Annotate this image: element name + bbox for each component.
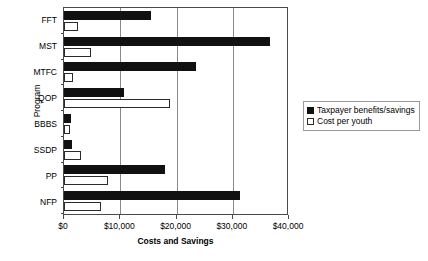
x-axis-tick <box>176 215 177 219</box>
bar-cost-per-youth <box>64 99 170 108</box>
bar-taxpayer-benefits <box>64 11 151 20</box>
legend-entry: Taxpayer benefits/savings <box>307 105 415 116</box>
x-axis-tick-label: $10,000 <box>104 221 135 231</box>
bar-cost-per-youth <box>64 22 78 31</box>
bar-taxpayer-benefits <box>64 191 240 200</box>
bar-taxpayer-benefits <box>64 114 71 123</box>
bar-taxpayer-benefits <box>64 165 165 174</box>
category-label: MST <box>14 33 60 59</box>
bar-group <box>64 34 287 60</box>
category-label: FFT <box>14 7 60 33</box>
x-axis-ticks <box>63 215 288 219</box>
x-axis-tick <box>232 215 233 219</box>
bar-taxpayer-benefits <box>64 37 270 46</box>
bar-cost-per-youth <box>64 73 73 82</box>
x-axis-tick-label: $30,000 <box>216 221 247 231</box>
bar-taxpayer-benefits <box>64 88 124 97</box>
x-axis-tick-label: $40,000 <box>273 221 304 231</box>
bar-cost-per-youth <box>64 202 101 211</box>
category-label: SSDP <box>14 137 60 163</box>
x-axis-tick-label: $20,000 <box>160 221 191 231</box>
bar-group <box>64 188 287 214</box>
category-label: MTFC <box>14 59 60 85</box>
bar-cost-per-youth <box>64 151 81 160</box>
bar-rows <box>64 8 287 214</box>
bar-group <box>64 8 287 34</box>
x-axis-tick-label: $0 <box>58 221 67 231</box>
y-axis-tick <box>61 213 64 214</box>
open-square-icon <box>307 118 314 125</box>
plot-area <box>63 7 288 215</box>
category-label: QOP <box>14 85 60 111</box>
category-label: BBBS <box>14 111 60 137</box>
y-axis-category-labels: FFTMSTMTFCQOPBBBSSSDPPPNFP <box>14 7 60 215</box>
category-label: PP <box>14 163 60 189</box>
bar-chart: Program FFTMSTMTFCQOPBBBSSSDPPPNFP $0$10… <box>0 0 428 261</box>
bar-group <box>64 85 287 111</box>
x-axis-tick-labels: $0$10,000$20,000$30,000$40,000 <box>0 221 428 233</box>
bar-cost-per-youth <box>64 125 70 134</box>
bar-group <box>64 60 287 86</box>
x-axis-title: Costs and Savings <box>63 236 288 246</box>
legend-entry: Cost per youth <box>307 116 415 127</box>
bar-group <box>64 163 287 189</box>
x-axis-tick <box>63 215 64 219</box>
bar-taxpayer-benefits <box>64 62 196 71</box>
x-axis-tick <box>119 215 120 219</box>
bar-group <box>64 137 287 163</box>
bar-cost-per-youth <box>64 176 108 185</box>
legend-label: Taxpayer benefits/savings <box>317 105 415 116</box>
filled-square-icon <box>307 107 314 114</box>
legend-label: Cost per youth <box>317 116 372 127</box>
bar-group <box>64 111 287 137</box>
category-label: NFP <box>14 189 60 215</box>
bar-cost-per-youth <box>64 48 91 57</box>
legend: Taxpayer benefits/savingsCost per youth <box>303 101 420 131</box>
x-axis-tick <box>288 215 289 219</box>
bar-taxpayer-benefits <box>64 140 72 149</box>
